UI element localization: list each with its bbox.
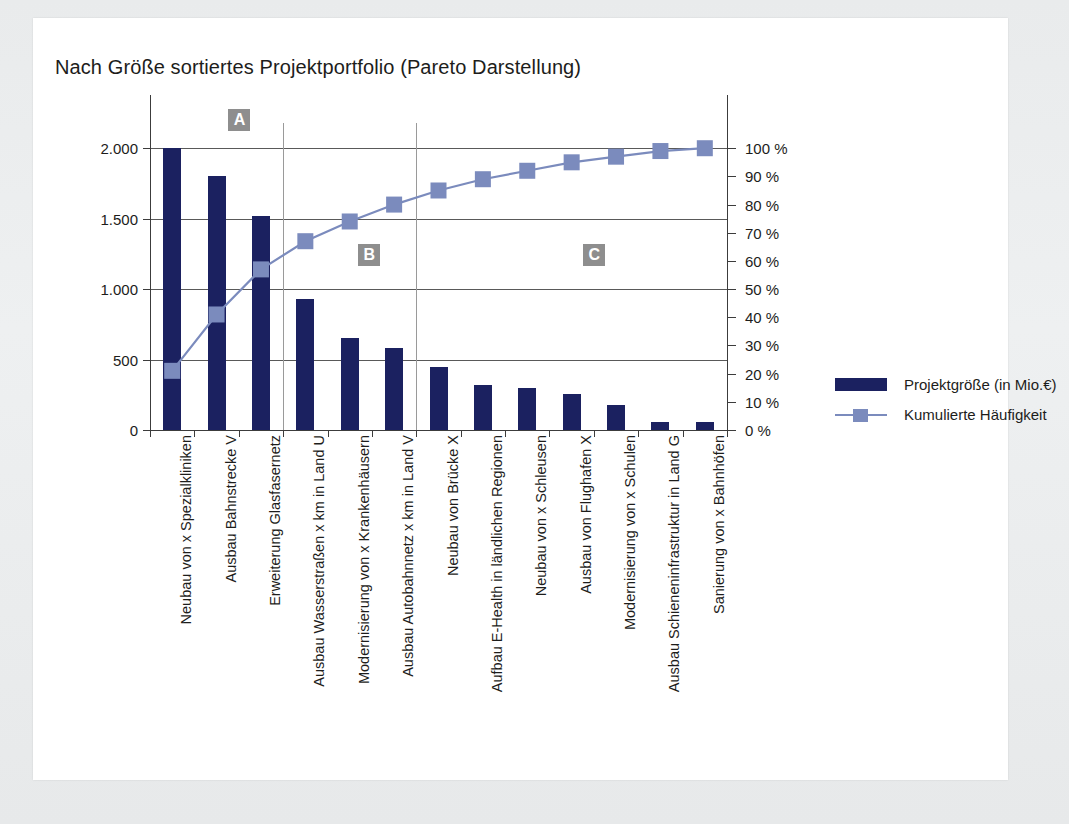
category-label: Erweiterung Glasfasernetz: [267, 435, 283, 606]
cumulative-line: [172, 148, 705, 371]
right-tick-label: 60 %: [745, 252, 779, 269]
bottom-tick: [549, 430, 550, 437]
category-label: Modernisierung von x Schulen: [622, 435, 638, 630]
cumulative-marker: [164, 363, 180, 379]
right-tick-label: 10 %: [745, 393, 779, 410]
category-label: Ausbau Bahnstrecke V: [223, 435, 239, 583]
bottom-tick: [283, 430, 284, 437]
right-tick-label: 30 %: [745, 337, 779, 354]
legend-label-bar: Projektgröße (in Mio.€): [904, 376, 1057, 393]
cumulative-marker: [475, 171, 491, 187]
bottom-tick: [505, 430, 506, 437]
zone-marker-a: A: [228, 109, 250, 131]
cumulative-marker: [342, 213, 358, 229]
category-label: Neubau von x Spezialkliniken: [178, 435, 194, 624]
left-tick-label: 1.500: [100, 210, 138, 227]
plot-inner: 05001.0001.5002.000 0 %10 %20 %30 %40 %5…: [150, 113, 727, 430]
cumulative-marker: [253, 261, 269, 277]
right-tick-label: 40 %: [745, 309, 779, 326]
zone-marker-c: C: [583, 244, 605, 266]
cumulative-marker: [652, 143, 668, 159]
right-tick: [727, 345, 736, 346]
legend-item-bar: Projektgröße (in Mio.€): [835, 376, 1057, 393]
cumulative-marker: [386, 197, 402, 213]
category-label: Neubau von Brücke X: [445, 435, 461, 576]
bottom-tick: [328, 430, 329, 437]
cumulative-marker: [564, 154, 580, 170]
category-label: Neubau von x Schleusen: [533, 435, 549, 596]
bottom-tick: [683, 430, 684, 437]
right-tick: [727, 374, 736, 375]
category-label: Modernisierung von x Krankenhäusern: [356, 435, 372, 684]
category-label: Ausbau von Flughafen X: [578, 435, 594, 594]
category-label: Ausbau Schieneninfrastruktur in Land G: [666, 435, 682, 692]
left-tick-label: 500: [113, 351, 138, 368]
plot-area: 05001.0001.5002.000 0 %10 %20 %30 %40 %5…: [117, 95, 728, 430]
right-tick: [727, 233, 736, 234]
right-tick-label: 0 %: [745, 422, 771, 439]
right-tick-label: 50 %: [745, 281, 779, 298]
bottom-tick: [372, 430, 373, 437]
bottom-tick: [194, 430, 195, 437]
pareto-chart: Nach Größe sortiertes Projektportfolio (…: [33, 18, 1008, 780]
bar-swatch-icon: [835, 378, 887, 391]
cumulative-marker: [519, 163, 535, 179]
right-tick: [727, 289, 736, 290]
right-tick: [727, 176, 736, 177]
cumulative-marker: [431, 182, 447, 198]
cumulative-marker: [697, 140, 713, 156]
right-tick-label: 20 %: [745, 365, 779, 382]
right-tick: [727, 261, 736, 262]
category-label: Aufbau E-Health in ländlichen Regionen: [489, 435, 505, 692]
chart-title: Nach Größe sortiertes Projektportfolio (…: [55, 56, 581, 79]
bottom-tick: [150, 430, 151, 437]
cumulative-marker: [608, 149, 624, 165]
right-tick-label: 80 %: [745, 196, 779, 213]
left-tick-label: 1.000: [100, 281, 138, 298]
cumulative-marker: [297, 233, 313, 249]
right-tick: [727, 317, 736, 318]
left-tick-label: 0: [130, 422, 138, 439]
left-tick-label: 2.000: [100, 140, 138, 157]
right-tick: [727, 148, 736, 149]
bottom-tick: [638, 430, 639, 437]
right-tick-label: 100 %: [745, 140, 788, 157]
category-label: Sanierung von x Bahnhöfen: [711, 435, 727, 614]
chart-panel: Nach Größe sortiertes Projektportfolio (…: [33, 18, 1008, 780]
cumulative-line-series: [150, 113, 727, 430]
right-tick: [727, 205, 736, 206]
right-tick: [727, 430, 736, 431]
right-tick-label: 90 %: [745, 168, 779, 185]
line-square-swatch-icon: [835, 408, 887, 421]
zone-marker-b: B: [358, 244, 380, 266]
bottom-axis: [150, 430, 728, 431]
legend-item-line: Kumulierte Häufigkeit: [835, 406, 1047, 423]
right-axis: [727, 95, 728, 430]
bottom-tick: [416, 430, 417, 437]
right-tick: [727, 402, 736, 403]
category-label: Ausbau Autobahnnetz x km in Land V: [400, 435, 416, 677]
cumulative-marker: [209, 306, 225, 322]
bottom-tick: [727, 430, 728, 437]
right-tick-label: 70 %: [745, 224, 779, 241]
legend-label-line: Kumulierte Häufigkeit: [904, 406, 1047, 423]
category-label: Ausbau Wasserstraßen x km in Land U: [311, 435, 327, 687]
